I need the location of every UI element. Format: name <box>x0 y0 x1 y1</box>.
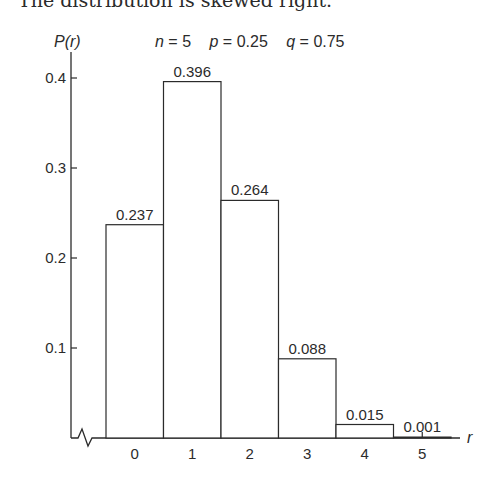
x-tick-label: 4 <box>361 445 369 462</box>
y-tick-label: 0.1 <box>45 339 66 356</box>
y-tick-label: 0.3 <box>45 159 66 176</box>
bars <box>106 82 451 438</box>
bar-value-label: 0.237 <box>116 206 154 223</box>
x-tick-label: 5 <box>418 445 426 462</box>
bar-r-3 <box>279 359 337 438</box>
x-tick-label: 3 <box>303 445 311 462</box>
x-tick-label: 0 <box>131 445 139 462</box>
bar-value-label: 0.088 <box>288 340 326 357</box>
bar-r-5 <box>394 437 452 438</box>
x-tick-label: 2 <box>246 445 254 462</box>
bar-value-label: 0.001 <box>403 418 441 435</box>
y-tick-label: 0.2 <box>45 249 66 266</box>
bar-value-label: 0.264 <box>231 181 269 198</box>
bar-value-label: 0.015 <box>346 406 384 423</box>
bar-r-0 <box>106 225 164 438</box>
bar-r-4 <box>336 425 394 439</box>
x-tick-label: 1 <box>188 445 196 462</box>
bar-value-label: 0.396 <box>173 63 211 80</box>
x-axis-label: r <box>467 429 473 446</box>
bar-r-2 <box>221 200 279 438</box>
y-tick-label: 0.4 <box>45 69 66 86</box>
bar-r-1 <box>164 82 222 438</box>
bar-chart: 0.10.20.30.4012345r 0.2370.3960.2640.088… <box>0 0 495 482</box>
